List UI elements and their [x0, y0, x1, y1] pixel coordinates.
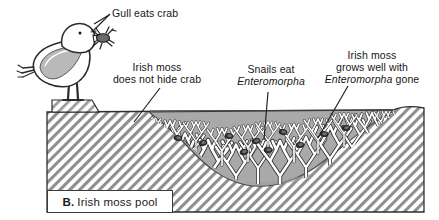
label-gull-text: Gull eats crab — [112, 7, 178, 19]
caption-text: Irish moss pool — [77, 196, 157, 208]
caption-prefix: B. — [62, 196, 74, 208]
label-grows-line3: Enteromorpha gone — [310, 74, 434, 86]
label-grows-species: Enteromorpha — [325, 73, 393, 85]
label-grows-line1: Irish moss — [310, 50, 434, 62]
label-grows-gone: gone — [392, 73, 419, 85]
label-irish-moss-grows-well: Irish moss grows well with Enteromorpha … — [310, 50, 434, 85]
label-hide-line1: Irish moss — [101, 62, 213, 74]
label-snails-eat-enteromorpha: Snails eat Enteromorpha — [226, 64, 316, 88]
figure-caption-box: B. Irish moss pool — [47, 190, 173, 213]
gull-perch-rock — [52, 100, 99, 112]
label-gull-eats-crab: Gull eats crab — [112, 8, 178, 20]
label-irish-moss-does-not-hide-crab: Irish moss does not hide crab — [101, 62, 213, 86]
label-snails-line2: Enteromorpha — [226, 76, 316, 88]
illustration-canvas — [0, 0, 439, 220]
label-hide-line2: does not hide crab — [101, 74, 213, 86]
label-snails-species: Enteromorpha — [237, 75, 305, 87]
figure-b-irish-moss-pool: Gull eats crab Irish moss does not hide … — [0, 0, 439, 220]
